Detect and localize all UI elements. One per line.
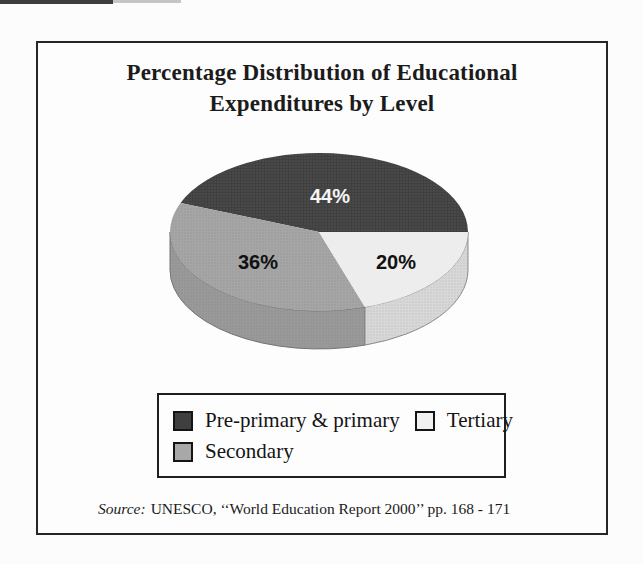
scanned-page: Percentage Distribution of Educational E…	[0, 0, 643, 564]
source-prefix: Source:	[98, 500, 146, 517]
chart-frame: Percentage Distribution of Educational E…	[36, 41, 608, 535]
legend-row-1: Pre-primary & primary Tertiary	[173, 405, 504, 436]
legend-item-preprimary: Pre-primary & primary	[173, 408, 400, 433]
source-note: Source:UNESCO, ‘‘World Education Report …	[98, 500, 510, 518]
scan-artifact-bar-faint	[113, 0, 181, 3]
chart-legend: Pre-primary & primary Tertiary Secondary	[157, 393, 506, 478]
pie-label-preprimary: 44%	[310, 185, 350, 207]
legend-label-secondary: Secondary	[205, 439, 294, 464]
legend-swatch-secondary	[173, 442, 193, 462]
legend-item-secondary: Secondary	[173, 439, 294, 464]
pie-label-secondary: 36%	[238, 251, 278, 273]
legend-row-2: Secondary	[173, 436, 504, 467]
pie-chart: 44% 36% 20%	[160, 145, 475, 357]
chart-title-line1: Percentage Distribution of Educational	[38, 57, 606, 88]
scan-artifact-bar	[0, 0, 113, 4]
legend-label-preprimary: Pre-primary & primary	[205, 408, 400, 433]
legend-swatch-preprimary	[173, 411, 193, 431]
chart-title-line2: Expenditures by Level	[38, 88, 606, 119]
legend-item-tertiary: Tertiary	[415, 408, 513, 433]
legend-label-tertiary: Tertiary	[447, 408, 513, 433]
legend-swatch-tertiary	[415, 411, 435, 431]
chart-title: Percentage Distribution of Educational E…	[38, 57, 606, 119]
pie-label-tertiary: 20%	[376, 251, 416, 273]
source-text: UNESCO, ‘‘World Education Report 2000’’ …	[151, 500, 511, 517]
